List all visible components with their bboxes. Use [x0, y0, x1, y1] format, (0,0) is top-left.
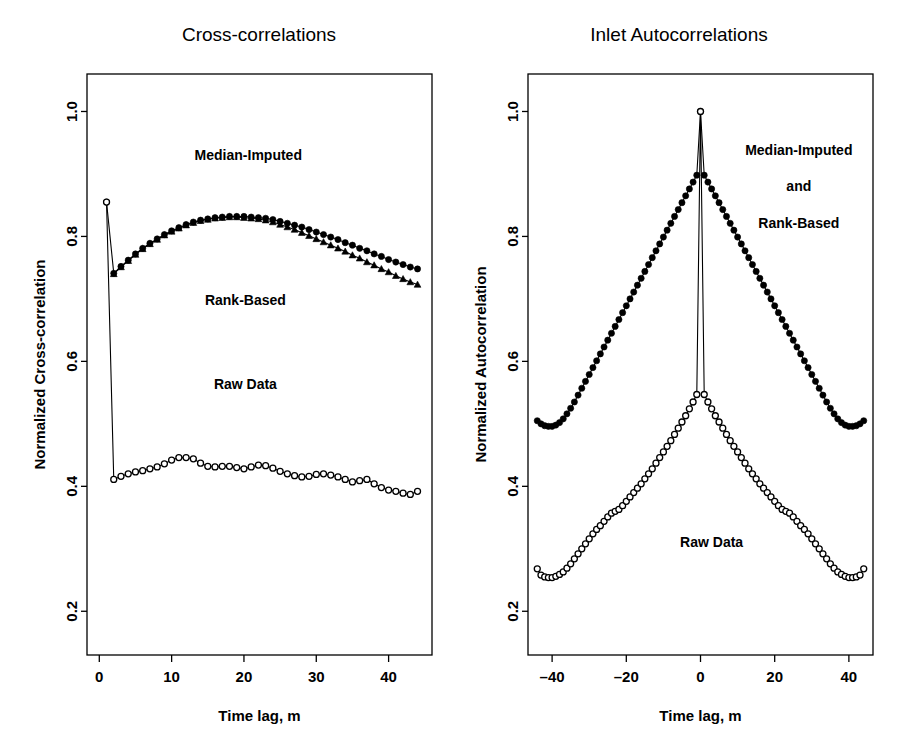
data-point [816, 385, 822, 391]
data-point [731, 227, 737, 233]
annotation-label: Rank-Based [758, 215, 839, 231]
y-tick: 0.8 [504, 226, 528, 247]
data-point [727, 220, 733, 226]
data-point [564, 411, 570, 417]
data-point [571, 399, 577, 405]
data-point [190, 456, 196, 462]
data-point [255, 462, 261, 468]
data-point [349, 479, 355, 485]
data-point [219, 463, 225, 469]
data-point [400, 490, 406, 496]
data-point [827, 405, 833, 411]
data-point [594, 358, 600, 364]
data-point [104, 199, 110, 205]
data-point [320, 231, 326, 237]
data-point [857, 572, 863, 578]
figure-root: Cross-correlations 0.20.40.60.81.0010203… [0, 0, 900, 744]
data-point [812, 378, 818, 384]
data-point [738, 241, 744, 247]
data-point [675, 425, 681, 431]
data-point [605, 337, 611, 343]
annotation-label: and [786, 178, 811, 194]
data-point [306, 226, 312, 232]
data-point [364, 259, 371, 265]
data-point [716, 200, 722, 206]
data-point [790, 337, 796, 343]
data-point [313, 471, 319, 477]
data-point [241, 466, 247, 472]
x-tick: 40 [380, 655, 397, 685]
data-point [378, 485, 384, 491]
data-point [277, 468, 283, 474]
annotation-label: Rank-Based [205, 292, 286, 308]
data-point [742, 460, 748, 466]
data-point [694, 172, 700, 178]
x-axis-label: Time lag, m [218, 707, 300, 724]
data-point [794, 344, 800, 350]
data-point [590, 365, 596, 371]
data-point [742, 248, 748, 254]
y-tick: 0.4 [504, 475, 528, 497]
data-point [620, 310, 626, 316]
data-point [392, 272, 399, 278]
data-point [690, 399, 696, 405]
data-point [783, 323, 789, 329]
chart-title: Inlet Autocorrelations [590, 24, 767, 45]
data-point [263, 463, 269, 469]
annotation-label: Median-Imputed [195, 147, 302, 163]
data-point [349, 252, 356, 258]
data-point [386, 256, 392, 262]
data-point [371, 251, 377, 257]
data-point [357, 245, 363, 251]
data-point [701, 172, 707, 178]
x-tick: 20 [236, 655, 253, 685]
data-point [727, 438, 733, 444]
data-point [805, 365, 811, 371]
series-rank-based [110, 214, 421, 288]
data-point [356, 255, 363, 261]
data-point [393, 488, 399, 494]
data-point [772, 303, 778, 309]
data-point [320, 239, 327, 245]
y-tick: 0.8 [63, 226, 87, 247]
data-point [407, 279, 414, 285]
data-point [568, 405, 574, 411]
data-point [757, 275, 763, 281]
data-point [601, 344, 607, 350]
data-point [212, 464, 218, 470]
data-point [132, 469, 138, 475]
data-point [342, 248, 349, 254]
data-point [820, 392, 826, 398]
data-point [764, 289, 770, 295]
data-point [660, 234, 666, 240]
data-point [575, 392, 581, 398]
data-point [768, 296, 774, 302]
data-point [631, 289, 637, 295]
data-point [335, 236, 341, 242]
data-point [642, 268, 648, 274]
data-point [371, 262, 378, 268]
data-point [306, 473, 312, 479]
data-point [313, 236, 320, 242]
data-point [649, 255, 655, 261]
y-tick-label: 0.4 [504, 475, 521, 497]
data-point [638, 275, 644, 281]
x-tick-label: 40 [380, 668, 397, 685]
data-point [686, 406, 692, 412]
y-tick-label: 1.0 [63, 101, 80, 122]
data-point [735, 449, 741, 455]
data-point [627, 296, 633, 302]
y-tick: 0.2 [504, 601, 528, 622]
data-point [709, 186, 715, 192]
data-point [675, 206, 681, 212]
data-point [716, 419, 722, 425]
panel-inlet-autocorrelations: Inlet Autocorrelations 0.20.40.60.81.0–4… [450, 0, 900, 744]
data-point [111, 476, 117, 482]
x-tick: 0 [696, 655, 704, 685]
chart-cross-correlations: Cross-correlations 0.20.40.60.81.0010203… [0, 0, 450, 744]
data-point [407, 264, 413, 270]
data-point [720, 425, 726, 431]
data-point [664, 227, 670, 233]
data-point [657, 241, 663, 247]
data-point [342, 476, 348, 482]
